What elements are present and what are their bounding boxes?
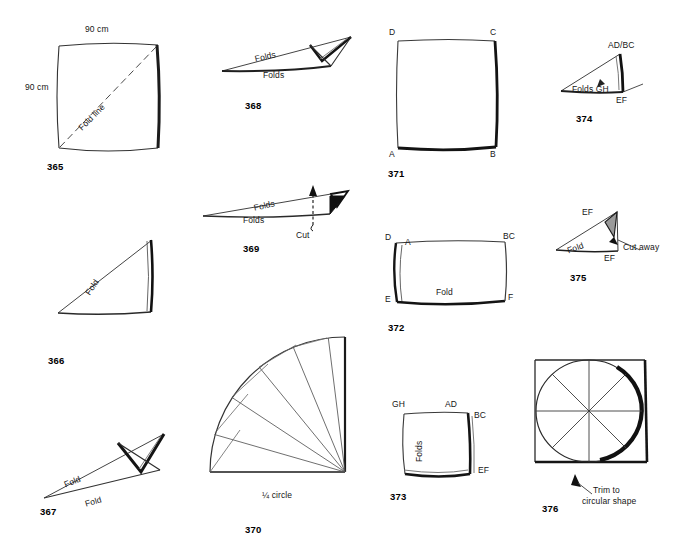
- trim-leader-line: [578, 483, 592, 494]
- label-376-trim-line2: circular shape: [582, 497, 636, 507]
- trimmed-arc-thick: [600, 367, 642, 460]
- figure-number-376: 376: [542, 503, 558, 514]
- square-right-edge-thick: [645, 360, 647, 462]
- figure-376: Trim to circular shape 376: [0, 0, 689, 537]
- figure-376-drawing: [0, 0, 689, 537]
- label-376-trim-line1: Trim to: [593, 486, 620, 496]
- page-root: { "page": { "background": "#ffffff", "in…: [0, 0, 689, 537]
- trim-arrow-head: [571, 474, 581, 487]
